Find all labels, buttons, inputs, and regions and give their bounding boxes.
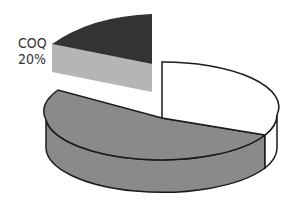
pie-chart (0, 0, 293, 204)
slice-label-coq: COQ (18, 35, 47, 51)
slice-value-coq: 20% (18, 51, 46, 67)
